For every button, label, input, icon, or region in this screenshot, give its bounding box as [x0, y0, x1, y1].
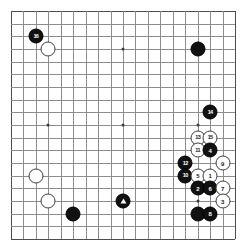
stone-move-number: 10: [183, 173, 188, 179]
stone-move-number: 14: [208, 110, 213, 116]
stone-move-number: 1: [209, 173, 212, 179]
stone-black-8[interactable]: 8: [203, 206, 218, 221]
stone-white-plain-d16[interactable]: [41, 42, 56, 57]
stone-black-plain-q16[interactable]: [190, 42, 205, 57]
stone-move-number: 6: [209, 185, 212, 191]
stone-move-number: 7: [221, 185, 224, 191]
grid-line-horizontal: [11, 239, 235, 240]
stone-move-number: 11: [195, 148, 200, 154]
star-point: [122, 124, 125, 127]
stone-move-number: 12: [183, 160, 188, 166]
triangle-marker-icon: [120, 199, 126, 204]
star-point: [196, 124, 199, 127]
stone-black-plain-d4[interactable]: [66, 206, 81, 221]
stone-black-16[interactable]: 16: [28, 29, 43, 44]
stone-white-3[interactable]: 3: [215, 194, 230, 209]
stone-move-number: 4: [209, 147, 212, 153]
stone-black-4[interactable]: 4: [203, 143, 218, 158]
stone-move-number: 8: [209, 211, 212, 217]
stone-move-number: 2: [196, 185, 199, 191]
grid-line-horizontal: [11, 226, 235, 227]
stone-move-number: 5: [196, 173, 199, 179]
stone-move-number: 13: [195, 135, 200, 141]
stone-white-9[interactable]: 9: [215, 156, 230, 171]
stone-white-plain-d10[interactable]: [28, 168, 43, 183]
grid-line-vertical: [135, 11, 136, 239]
grid-line-vertical: [210, 11, 211, 239]
star-point: [47, 124, 50, 127]
go-diagram: 16141315114129105126738: [0, 0, 246, 251]
star-point: [122, 48, 125, 51]
stone-move-number: 15: [208, 135, 213, 141]
grid-line-horizontal: [11, 163, 235, 164]
stone-move-number: 16: [33, 34, 38, 40]
stone-white-plain-c6[interactable]: [41, 194, 56, 209]
star-point: [196, 200, 199, 203]
stone-black-triangle[interactable]: [116, 194, 131, 209]
grid-line-vertical: [185, 11, 186, 239]
grid-line-vertical: [173, 11, 174, 239]
stone-black-14[interactable]: 14: [203, 105, 218, 120]
grid-line-vertical: [160, 11, 161, 239]
stone-move-number: 3: [221, 198, 224, 204]
go-board-grid[interactable]: 16141315114129105126738: [11, 11, 235, 239]
grid-line-vertical: [235, 11, 236, 239]
stone-move-number: 9: [221, 160, 224, 166]
grid-line-vertical: [148, 11, 149, 239]
